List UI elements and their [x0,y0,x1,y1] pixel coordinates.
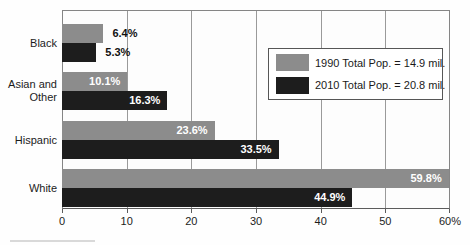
bar-chart: 6.4%5.3%10.1%16.3%23.6%33.5%59.8%44.9% B… [0,0,470,245]
value-label: 5.3% [105,43,130,62]
bar-2010-0 [62,43,96,62]
value-label: 44.9% [62,188,345,207]
axis-tick-50 [385,209,386,213]
legend-row-1990: 1990 Total Pop. = 14.9 mil. [276,54,442,71]
value-label: 6.4% [112,24,137,43]
axis-tick-20 [191,209,192,213]
value-label: 59.8% [62,169,442,188]
axis-tick-60 [449,209,450,213]
axis-tick-0 [62,209,63,213]
legend-swatch-2010 [276,77,309,94]
value-label: 16.3% [62,91,160,110]
axis-tick-label-60: 60% [439,215,461,227]
bar-1990-0 [62,24,103,43]
axis-tick-label-20: 20 [185,215,197,227]
axis-tick-label-30: 30 [250,215,262,227]
category-label-1: Asian and Other [0,78,57,104]
legend-swatch-1990 [276,54,309,71]
axis-tick-label-50: 50 [379,215,391,227]
value-label: 10.1% [62,72,120,91]
category-label-2: Hispanic [0,133,57,146]
bottom-partial-line [10,240,95,242]
axis-tick-label-0: 0 [59,215,65,227]
legend-label-2010: 2010 Total Pop. = 20.8 mil. [315,79,445,91]
category-label-3: White [0,182,57,195]
axis-tick-label-10: 10 [121,215,133,227]
value-label: 33.5% [62,140,272,159]
legend-row-2010: 2010 Total Pop. = 20.8 mil. [276,77,442,94]
category-label-0: Black [0,37,57,50]
axis-tick-40 [321,209,322,213]
axis-tick-label-40: 40 [315,215,327,227]
legend: 1990 Total Pop. = 14.9 mil.2010 Total Po… [268,48,443,100]
legend-label-1990: 1990 Total Pop. = 14.9 mil. [315,57,445,69]
value-label: 23.6% [62,121,208,140]
axis-tick-30 [256,209,257,213]
axis-tick-10 [127,209,128,213]
